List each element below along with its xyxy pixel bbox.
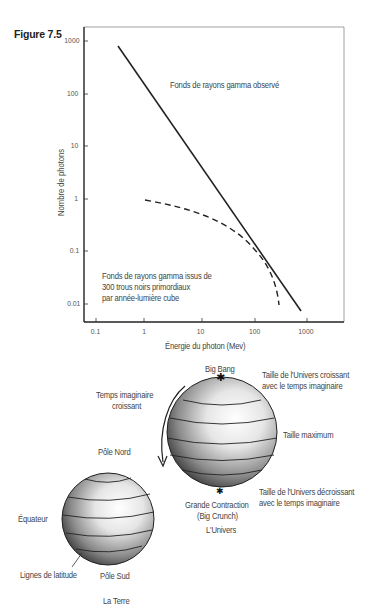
universe-growing-label-2: avec le temps imaginaire <box>262 381 343 391</box>
latitude-lines-label: Lignes de latitude <box>20 570 77 580</box>
primordial-annotation-line3: par année-lumière cube <box>102 293 179 303</box>
big-crunch-label-2: (Big Crunch) <box>197 511 238 521</box>
maximum-size-label: Taille maximum <box>283 430 333 440</box>
observed-series-annotation: Fonds de rayons gamma observé <box>170 80 279 90</box>
universe-shrinking-label-2: avec le temps imaginaire <box>259 498 340 508</box>
big-crunch-label-1: Grande Contraction <box>185 500 249 510</box>
imaginary-time-label-1: Temps imaginaire <box>96 390 153 400</box>
y-tick-label: 100 <box>67 89 78 98</box>
x-axis-label: Énergie du photon (Mev) <box>165 341 245 351</box>
y-tick-label: 0.1 <box>70 246 79 255</box>
imaginary-time-label-2: croissant <box>112 401 141 411</box>
x-tick-label: 1 <box>142 327 146 336</box>
earth-name-label: La Terre <box>103 596 130 606</box>
y-tick-label: 10 <box>71 141 79 150</box>
earth-sphere <box>62 473 154 567</box>
y-tick-label: 1 <box>74 194 78 203</box>
x-tick-label: 10 <box>197 327 205 336</box>
latitude-pointer-line <box>72 553 82 567</box>
chart-canvas: ✱ ✱ <box>0 0 375 609</box>
universe-shrinking-label-1: Taille de l'Univers décroissant <box>259 487 354 497</box>
universe-sphere <box>167 377 277 487</box>
x-tick-label: 100 <box>249 327 260 336</box>
south-pole-label: Pôle Sud <box>100 571 130 581</box>
x-tick-label: 1000 <box>298 327 313 336</box>
y-axis-label: Nombre de photons <box>56 149 66 216</box>
primordial-annotation-line1: Fonds de rayons gamma issus de <box>102 271 212 281</box>
universe-name-label: L'Univers <box>206 525 236 535</box>
x-tick-label: 0.1 <box>91 327 100 336</box>
y-tick-label: 0.01 <box>67 299 80 308</box>
equator-label: Équateur <box>18 514 48 524</box>
primordial-annotation-line2: 300 trous noirs primordiaux <box>102 282 190 292</box>
big-crunch-star-icon: ✱ <box>216 486 224 496</box>
y-tick-label: 1000 <box>64 36 79 45</box>
big-bang-label: Big Bang <box>205 364 235 374</box>
universe-growing-label-1: Taille de l'Univers croissant <box>262 370 349 380</box>
north-pole-label: Pôle Nord <box>98 447 130 457</box>
